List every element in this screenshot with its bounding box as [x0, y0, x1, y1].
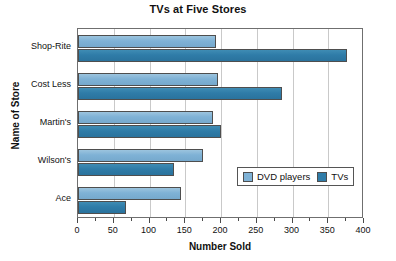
- x-minor-tick: [166, 218, 167, 221]
- x-tick-label: 250: [236, 225, 276, 235]
- x-tick: [292, 218, 293, 223]
- legend-swatch-icon: [317, 172, 327, 182]
- x-axis-title: Number Sold: [77, 241, 363, 252]
- y-tick-label: Cost Less: [4, 79, 71, 89]
- x-minor-tick: [238, 218, 239, 221]
- x-minor-tick: [131, 218, 132, 221]
- x-minor-tick: [202, 218, 203, 221]
- bar-cost-less-tvs: [78, 87, 282, 100]
- plot-area: [77, 28, 363, 218]
- x-tick: [113, 218, 114, 223]
- bar-group: [78, 105, 362, 143]
- legend-item: TVs: [317, 171, 348, 182]
- x-tick: [77, 218, 78, 223]
- x-tick: [327, 218, 328, 223]
- x-tick-label: 150: [164, 225, 204, 235]
- x-tick-label: 50: [93, 225, 133, 235]
- x-tick: [184, 218, 185, 223]
- x-minor-tick: [309, 218, 310, 221]
- legend-item: DVD players: [243, 171, 310, 182]
- x-tick-label: 100: [129, 225, 169, 235]
- bar-martin-s-tvs: [78, 125, 221, 138]
- bar-cost-less-dvd-players: [78, 73, 218, 86]
- chart-legend: DVD playersTVs: [237, 167, 354, 186]
- bar-ace-dvd-players: [78, 187, 181, 200]
- legend-label: TVs: [331, 171, 348, 182]
- x-tick-label: 200: [200, 225, 240, 235]
- bar-group: [78, 67, 362, 105]
- x-tick-label: 350: [307, 225, 347, 235]
- x-minor-tick: [274, 218, 275, 221]
- bar-group: [78, 181, 362, 219]
- x-tick: [149, 218, 150, 223]
- bar-martin-s-dvd-players: [78, 111, 213, 124]
- x-tick: [363, 218, 364, 223]
- bar-wilson-s-tvs: [78, 163, 174, 176]
- bar-shop-rite-dvd-players: [78, 35, 216, 48]
- y-tick-label: Wilson's: [4, 155, 71, 165]
- legend-swatch-icon: [243, 172, 253, 182]
- y-tick-label: Martin's: [4, 117, 71, 127]
- y-tick-label: Ace: [4, 193, 71, 203]
- bar-group: [78, 29, 362, 67]
- bar-chart: TVs at Five Stores Number Sold Name of S…: [0, 0, 396, 261]
- x-tick: [220, 218, 221, 223]
- legend-label: DVD players: [257, 171, 310, 182]
- x-tick-label: 400: [343, 225, 383, 235]
- y-tick-label: Shop-Rite: [4, 41, 71, 51]
- chart-title: TVs at Five Stores: [0, 3, 396, 15]
- x-tick-label: 300: [272, 225, 312, 235]
- x-minor-tick: [95, 218, 96, 221]
- bar-wilson-s-dvd-players: [78, 149, 203, 162]
- bar-shop-rite-tvs: [78, 49, 347, 62]
- bar-ace-tvs: [78, 201, 126, 214]
- x-tick: [256, 218, 257, 223]
- x-minor-tick: [345, 218, 346, 221]
- x-tick-label: 0: [57, 225, 97, 235]
